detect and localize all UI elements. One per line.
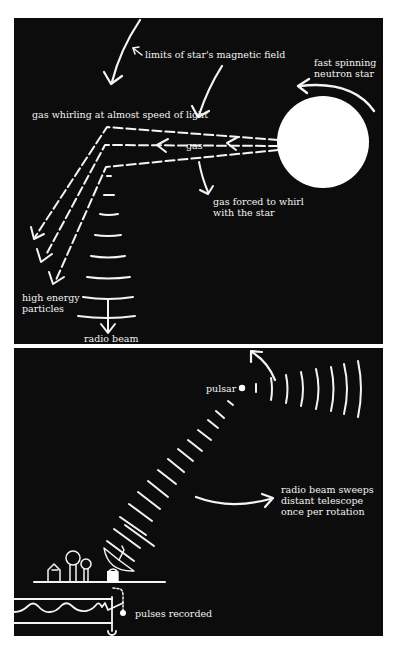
label-pulsar: pulsar (206, 383, 237, 394)
label-gas: gas (186, 140, 203, 151)
label-radio-beam: radio beam (84, 333, 138, 344)
label-particles-2: particles (22, 303, 64, 314)
tree-icon (66, 551, 91, 582)
label-gas-whirling: gas whirling at almost speed of light (32, 109, 208, 120)
label-neutron-star-2: neutron star (314, 68, 374, 79)
radio-beam-arrow (101, 300, 115, 333)
sweep-telescope-arrow (196, 494, 273, 507)
pulse-recorder (14, 597, 123, 635)
telescope-base (107, 571, 118, 582)
sweep-arrow-icon (251, 351, 275, 380)
label-magnetic-field: limits of star's magnetic field (145, 49, 285, 60)
radio-beam-waves (78, 176, 135, 318)
label-particles-1: high energy (22, 292, 80, 303)
label-gas-forced-1: gas forced to whirl (213, 196, 304, 207)
magnetic-field-label-arrow (133, 47, 142, 55)
label-sweeps-2: distant telescope (281, 495, 364, 506)
gas-forced-arrow (199, 162, 213, 194)
beam-waves-horizontal (256, 361, 361, 417)
label-gas-forced-2: with the star (213, 207, 275, 218)
beam-waves-diagonal (107, 401, 233, 561)
pulsar-dot (239, 385, 245, 391)
label-neutron-star-1: fast spinning (314, 57, 376, 68)
recorder-dot (120, 610, 126, 616)
neutron-star-circle (277, 96, 369, 188)
label-sweeps-3: once per rotation (281, 506, 365, 517)
label-sweeps-1: radio beam sweeps (281, 484, 374, 495)
label-pulses-recorded: pulses recorded (135, 608, 212, 619)
signal-cable (113, 588, 123, 612)
house-icon (48, 564, 60, 582)
pulsar-diagram: limits of star's magnetic field fast spi… (0, 0, 397, 655)
